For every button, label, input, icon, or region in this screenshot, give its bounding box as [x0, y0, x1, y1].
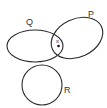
x-mark: x [56, 38, 59, 44]
venn-diagram: Q P R x [0, 0, 107, 108]
set-q-label: Q [26, 17, 33, 27]
set-r-label: R [64, 85, 71, 95]
set-p-label: P [88, 9, 94, 19]
set-q-ellipse [7, 30, 63, 62]
dot-mark [57, 45, 60, 48]
set-r-circle [22, 65, 62, 105]
